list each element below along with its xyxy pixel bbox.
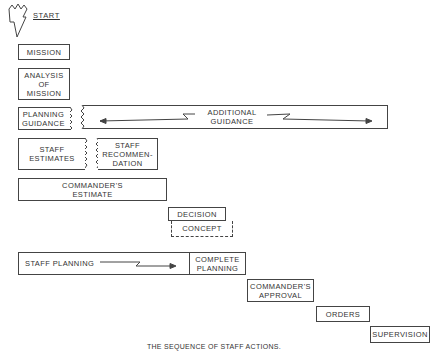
figure-caption: THE SEQUENCE OF STAFF ACTIONS.	[0, 343, 428, 350]
step-concept: CONCEPT	[171, 221, 233, 237]
step-staff-planning: STAFF PLANNING	[18, 252, 190, 275]
step-planning-guidance: PLANNING GUIDANCE	[18, 107, 70, 130]
start-arrow-icon	[9, 4, 27, 37]
step-staff-recommendation: STAFF RECOMMEN- DATION	[98, 138, 158, 170]
step-complete-planning: COMPLETE PLANNING	[189, 252, 246, 275]
step-commanders-approval: COMMANDER'S APPROVAL	[247, 279, 314, 302]
additional-guidance-label: ADDITIONAL GUIDANCE	[197, 108, 267, 126]
staff-planning-label: STAFF PLANNING	[25, 259, 94, 268]
step-supervision: SUPERVISION	[370, 326, 430, 343]
step-orders: ORDERS	[316, 306, 370, 322]
step-mission: MISSION	[18, 44, 70, 60]
start-label: START	[33, 11, 60, 20]
step-staff-estimates: STAFF ESTIMATES	[18, 138, 85, 170]
step-decision: DECISION	[168, 207, 226, 221]
step-commanders-estimate: COMMANDER'S ESTIMATE	[18, 178, 167, 201]
step-analysis-of-mission: ANALYSIS OF MISSION	[18, 68, 70, 100]
